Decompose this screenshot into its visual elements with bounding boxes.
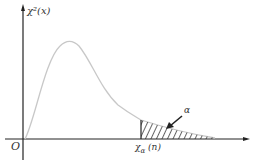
origin-label: O bbox=[11, 141, 20, 152]
y-axis-arrow-icon bbox=[21, 4, 25, 11]
density-curve bbox=[25, 42, 215, 140]
alpha-pointer bbox=[170, 116, 182, 126]
y-axis-label: χ²(x) bbox=[27, 6, 51, 16]
critical-label-sub: α bbox=[140, 147, 145, 155]
chi-square-diagram: χ²(x) O χα (n) α bbox=[0, 0, 254, 164]
critical-value-label: χα (n) bbox=[135, 143, 161, 155]
x-axis-arrow-icon bbox=[243, 137, 250, 141]
tail-probability-label: α bbox=[184, 106, 190, 115]
critical-label-arg: (n) bbox=[148, 142, 161, 152]
diagram-canvas bbox=[0, 0, 254, 164]
